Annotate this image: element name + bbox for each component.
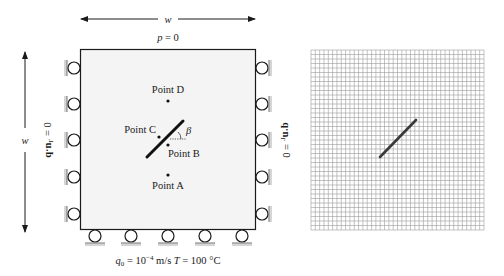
boundary-value-problem-diagram: w w p = 0 [21,14,292,268]
point-c-label: Point C [124,124,156,135]
point-a-label: Point A [152,180,184,191]
left-boundary-condition: q·nΓ = 0 [42,122,55,158]
bottom-boundary-condition: q0 = 10−4 m/s T = 100 °C [116,254,221,268]
width-label-top: w [164,14,171,25]
left-roller-supports [64,60,80,222]
right-roller-supports [256,60,272,222]
width-dimension-top: w [81,14,255,25]
figure: w w p = 0 [0,0,504,276]
width-label-side: w [21,135,28,146]
bottom-roller-supports [85,230,252,246]
domain-box [81,50,256,230]
angle-label: β [185,125,192,136]
finite-element-mesh [311,50,484,230]
top-boundary-condition: p = 0 [156,32,179,43]
point-b-label: Point B [168,148,200,159]
point-d-label: Point D [152,84,185,95]
width-dimension-side: w [21,52,28,232]
right-boundary-condition: q·nΓ = 0 [279,122,292,158]
